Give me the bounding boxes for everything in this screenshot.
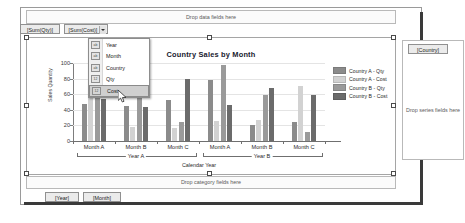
chart-bar <box>256 120 261 141</box>
x-axis-category-label: Month A <box>84 144 105 150</box>
selection-handle-bottom-center[interactable] <box>207 171 212 176</box>
y-axis-tick-label: 100 <box>61 60 70 66</box>
chart-bar <box>250 125 255 141</box>
menu-item-country[interactable]: abCountry <box>89 62 149 74</box>
y-axis-title: Sales Quantity <box>47 68 53 102</box>
frame-shadow-bottom <box>24 202 423 205</box>
legend-item: Country A - Cost <box>333 76 387 83</box>
selection-handle-bottom-right[interactable] <box>391 171 396 176</box>
legend-item: Country B - Cost <box>333 93 387 100</box>
numeric-field-icon: 12 <box>90 85 103 97</box>
abc-field-icon: ab <box>89 39 102 51</box>
y-axis-tick-mark <box>70 125 73 126</box>
selection-handle-middle-left[interactable] <box>24 103 29 108</box>
chart-bar <box>227 105 232 141</box>
menu-item-year[interactable]: abYear <box>89 39 149 51</box>
field-button-month-label: [Month] <box>93 195 111 201</box>
x-axis-category-label: Month A <box>210 144 231 150</box>
x-axis-category-label: Month C <box>167 144 188 150</box>
mouse-cursor-icon <box>118 90 127 103</box>
chart-bar <box>88 93 93 141</box>
field-button-sum-qty-label: [Sum(Qty)] <box>27 27 53 33</box>
chevron-down-icon[interactable] <box>99 26 106 34</box>
x-axis-tick-mark <box>199 141 200 144</box>
chart-bar <box>214 121 219 141</box>
chart-bar <box>82 104 87 141</box>
chart-bar <box>185 79 190 141</box>
chart-bar <box>166 100 171 141</box>
chart-title: Country Sales by Month <box>27 50 395 59</box>
legend-swatch <box>333 84 346 91</box>
field-button-sum-cost[interactable]: [Sum(Cost)] <box>64 24 108 34</box>
y-axis-tick-mark <box>70 94 73 95</box>
field-button-month[interactable]: [Month] <box>83 192 121 202</box>
legend-swatch <box>333 76 346 83</box>
y-axis-line <box>73 63 74 142</box>
field-button-year-label: [Year] <box>55 195 69 201</box>
field-dropdown-menu[interactable]: abYearabMonthabCountry12Qty12Cost <box>88 38 150 98</box>
selection-handle-top-right[interactable] <box>391 35 396 40</box>
drop-data-fields-zone[interactable]: Drop data fields here <box>26 10 396 24</box>
x-axis-title: Calendar Year <box>182 162 216 168</box>
abc-field-icon: ab <box>89 62 102 74</box>
legend-label: Country B - Qty <box>349 85 385 91</box>
legend-label: Country A - Cost <box>349 76 387 82</box>
x-axis-category-label: Month B <box>126 144 147 150</box>
chart-bar <box>221 65 226 141</box>
field-button-year[interactable]: [Year] <box>45 192 79 202</box>
menu-item-label: Year <box>102 42 117 48</box>
legend-item: Country B - Qty <box>333 84 387 91</box>
menu-item-label: Month <box>102 53 121 59</box>
selection-handle-middle-right[interactable] <box>391 103 396 108</box>
selection-handle-bottom-left[interactable] <box>24 171 29 176</box>
legend-item: Country A - Qty <box>333 67 387 74</box>
chart-bar <box>101 99 106 141</box>
chart-bar <box>269 88 274 141</box>
y-axis-tick-mark <box>70 110 73 111</box>
legend-label: Country A - Qty <box>349 68 384 74</box>
chart-bar <box>124 106 129 141</box>
x-axis-category-label: Month C <box>293 144 314 150</box>
menu-item-label: Country <box>102 65 125 71</box>
x-axis-group-label: Year A <box>126 153 146 159</box>
field-button-sum-cost-label: [Sum(Cost)] <box>69 27 98 33</box>
menu-item-month[interactable]: abMonth <box>89 51 149 63</box>
chart-bar <box>208 80 213 141</box>
chart-legend: Country A - QtyCountry A - CostCountry B… <box>333 67 387 101</box>
x-axis-tick-mark <box>241 141 242 144</box>
legend-swatch <box>333 67 346 74</box>
gridline <box>73 125 325 126</box>
legend-swatch <box>333 93 346 100</box>
selection-handle-top-center[interactable] <box>207 35 212 40</box>
chart-bar <box>298 86 303 141</box>
chart-bar <box>263 95 268 141</box>
menu-item-qty[interactable]: 12Qty <box>89 74 149 86</box>
x-axis-line <box>73 141 341 142</box>
y-axis-tick-mark <box>70 79 73 80</box>
chart-bar <box>179 122 184 142</box>
drop-data-fields-label: Drop data fields here <box>186 14 236 20</box>
chart-bar <box>311 95 316 141</box>
drop-series-fields-zone[interactable]: Drop series fields here <box>402 40 464 160</box>
selection-handle-top-left[interactable] <box>24 35 29 40</box>
chart-bar <box>172 128 177 141</box>
drop-category-fields-label: Drop category fields here <box>181 179 241 185</box>
drop-category-fields-zone[interactable]: Drop category fields here <box>26 176 396 189</box>
field-button-country[interactable]: [Country] <box>408 44 448 54</box>
x-axis-tick-mark <box>115 141 116 144</box>
abc-field-icon: ab <box>89 51 102 63</box>
field-button-country-label: [Country] <box>417 47 439 53</box>
chart-bar <box>292 122 297 141</box>
chart-bar <box>305 132 310 141</box>
y-axis-tick-mark <box>70 63 73 64</box>
numeric-field-icon: 12 <box>89 74 102 86</box>
x-axis-tick-mark <box>325 141 326 144</box>
drop-series-fields-label: Drop series fields here <box>403 107 463 114</box>
chart-region[interactable]: Country Sales by Month Sales Quantity 02… <box>26 37 396 175</box>
report-designer-canvas: Drop data fields here [Sum(Qty)] [Sum(Co… <box>0 0 465 223</box>
menu-item-label: Cost <box>103 88 118 94</box>
chart-bar <box>143 107 148 141</box>
legend-label: Country B - Cost <box>349 93 387 99</box>
chart-bar <box>130 127 135 141</box>
field-button-sum-qty[interactable]: [Sum(Qty)] <box>20 24 60 34</box>
